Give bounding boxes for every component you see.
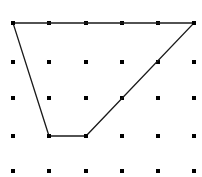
grid-dot <box>84 60 87 63</box>
grid-dot <box>120 169 123 172</box>
grid-dot <box>11 60 14 63</box>
grid-dot <box>84 169 87 172</box>
grid-dot <box>192 96 195 99</box>
grid-dot <box>120 60 123 63</box>
grid-dot <box>47 96 50 99</box>
geoboard-figure <box>0 0 202 177</box>
polygon-vertex-top-left <box>11 21 14 24</box>
grid-dot <box>192 134 195 137</box>
grid-dot <box>120 134 123 137</box>
polygon-vertex-top-right <box>192 21 195 24</box>
grid-dot <box>192 60 195 63</box>
canvas-background <box>0 0 202 177</box>
polygon-vertex-bottom-right <box>84 134 87 137</box>
polygon-vertex-bottom-left <box>47 134 50 137</box>
grid-dot <box>47 169 50 172</box>
grid-dot <box>156 134 159 137</box>
grid-dot <box>47 60 50 63</box>
grid-dot <box>192 169 195 172</box>
grid-dot <box>11 134 14 137</box>
grid-dot <box>11 96 14 99</box>
grid-dot <box>11 169 14 172</box>
grid-dot <box>156 169 159 172</box>
geoboard-canvas <box>0 0 202 177</box>
grid-dot <box>84 96 87 99</box>
grid-dot <box>156 96 159 99</box>
